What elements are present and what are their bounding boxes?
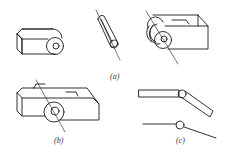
diagram-canvas: (a) (b) (c) [0, 0, 231, 156]
label-a: (a) [110, 72, 120, 81]
pin-a [96, 10, 120, 60]
label-b: (b) [54, 136, 64, 145]
schematic-joint-c1 [139, 90, 213, 117]
hinge-block-a1 [17, 29, 64, 55]
slotted-block-b [17, 80, 99, 132]
label-c: (c) [176, 136, 185, 145]
clevis-assembly-a [146, 11, 208, 64]
